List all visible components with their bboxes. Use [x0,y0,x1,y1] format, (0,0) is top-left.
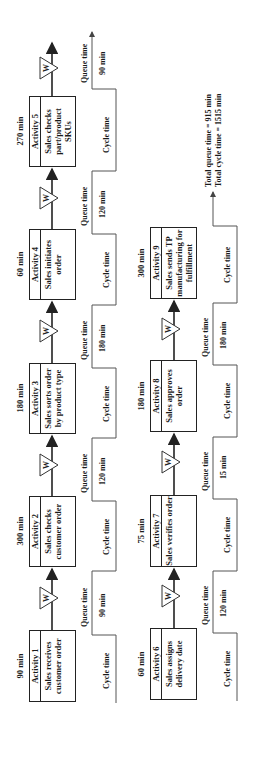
queue-time-label: Queue time [201,452,210,491]
activity-4-title: Activity 4 [30,230,41,299]
activity-6-title: Activity 6 [151,629,162,699]
activity-5-title: Activity 5 [30,97,41,166]
cycle-time-label: Cycle time [102,117,111,153]
activity-3-title: Activity 3 [30,364,41,433]
activity-2-title: Activity 2 [30,497,41,566]
activity-9-title: Activity 9 [151,228,162,298]
queue-time-label: Queue time [80,321,89,360]
activity-6-description: Sales assigns delivery date [162,629,184,699]
queue-time-label: Queue time [201,318,210,357]
cycle-time-label: Cycle time [102,252,111,288]
activity-2-description: Sales checks customer order [41,497,63,566]
wait-symbol: W [164,592,173,600]
wait-symbol: W [42,64,51,72]
queue-time-label: Queue time [80,588,89,627]
activity-3-duration: 180 min [15,362,25,434]
activity-1-title: Activity 1 [30,631,41,701]
cycle-time-label: Cycle time [223,517,232,553]
queue-time-value: 90 min [98,52,107,75]
queue-time-value: 120 min [98,191,107,218]
queue-time-label: Queue time [80,187,89,226]
activity-7-description: Sales verifies order [162,496,174,566]
activity-9-description: Sales sends TP manufacturing for fulfill… [162,228,194,298]
wait-symbol: W [164,458,173,466]
activity-8-box: Activity 8 Sales approves order [150,360,197,432]
queue-time-value: 15 min [219,456,228,479]
activity-5-description: Sales checks part/product SKUs [41,97,73,166]
activity-6-duration: 60 min [136,628,146,700]
queue-time-value: 180 min [219,322,228,349]
queue-time-value: 180 min [98,325,107,352]
wait-symbol: W [42,461,51,469]
wait-symbol: W [164,325,173,333]
queue-time-label: Queue time [201,586,210,625]
activity-7-box: Activity 7 Sales verifies order [150,495,197,567]
activity-7-title: Activity 7 [151,496,162,566]
activity-6-box: Activity 6 Sales assigns delivery date [150,628,197,700]
value-stream-map: W W W W W W W W 90 min Activity 1 Sales … [0,0,255,763]
activity-1-description: Sales receives customer order [41,631,63,701]
total-queue-time: Total queue time = 915 min [204,94,214,187]
cycle-time-label: Cycle time [102,519,111,555]
wait-symbol: W [42,327,51,335]
activity-8-description: Sales approves order [162,361,184,431]
cycle-time-label: Cycle time [223,247,232,283]
activity-2-box: Activity 2 Sales checks customer order [29,496,76,567]
totals-summary: Total queue time = 915 min Total cycle t… [204,94,224,187]
activity-3-description: Sales sorts order by product type [41,364,63,433]
activity-4-description: Sales initiates order [41,230,63,299]
queue-time-value: 90 min [98,594,107,617]
activity-3-box: Activity 3 Sales sorts order by product … [29,363,76,434]
activity-5-box: Activity 5 Sales checks part/product SKU… [29,96,76,167]
activity-9-box: Activity 9 Sales sends TP manufacturing … [150,227,197,299]
activity-4-box: Activity 4 Sales initiates order [29,229,76,300]
cycle-time-label: Cycle time [102,653,111,689]
activity-4-duration: 60 min [15,228,25,300]
queue-time-label: Queue time [80,44,89,83]
activity-8-title: Activity 8 [151,361,162,431]
activity-9-duration: 300 min [136,227,146,299]
activity-5-duration: 270 min [15,95,25,167]
queue-time-value: 120 min [219,590,228,617]
queue-time-value: 120 min [98,458,107,485]
cycle-time-label: Cycle time [223,651,232,687]
activity-1-box: Activity 1 Sales receives customer order [29,630,76,702]
wait-symbol: W [42,194,51,202]
activity-1-duration: 90 min [15,630,25,702]
activity-2-duration: 300 min [15,495,25,567]
queue-time-label: Queue time [80,454,89,493]
cycle-time-label: Cycle time [102,386,111,422]
wait-symbol: W [42,594,51,602]
cycle-time-label: Cycle time [223,383,232,419]
activity-8-duration: 180 min [136,360,146,432]
total-cycle-time: Total cycle time = 1515 min [214,94,224,187]
activity-7-duration: 75 min [136,495,146,567]
